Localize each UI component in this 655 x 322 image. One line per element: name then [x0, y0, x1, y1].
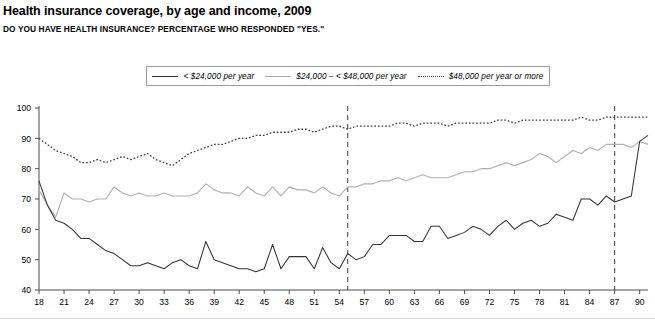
y-axis-tick-label: 50 — [21, 255, 31, 265]
annotation-vertical-lines — [348, 106, 615, 290]
y-axis-tick-labels: 405060708090100 — [17, 103, 32, 295]
x-axis-tick-labels: 1821242730333639424548515457606366697275… — [34, 297, 644, 307]
y-axis-tick-label: 70 — [21, 194, 31, 204]
series-line-solid-dark — [39, 135, 648, 271]
y-axis-tick-label: 60 — [21, 225, 31, 235]
series-line-dotted — [39, 117, 648, 166]
y-axis-tick-label: 40 — [21, 285, 31, 295]
x-axis-tick-label: 90 — [635, 297, 645, 307]
chart-container: Health insurance coverage, by age and in… — [0, 0, 655, 322]
x-axis-tick-label: 42 — [234, 297, 244, 307]
y-axis-tick-label: 100 — [17, 103, 32, 113]
x-axis-tick-label: 30 — [134, 297, 144, 307]
x-axis-tick-label: 54 — [335, 297, 345, 307]
data-series-group — [39, 117, 648, 272]
x-axis-tick-label: 21 — [59, 297, 69, 307]
x-axis-tick-label: 69 — [460, 297, 470, 307]
x-axis-tick-label: 45 — [259, 297, 269, 307]
x-axis-tick-label: 66 — [435, 297, 445, 307]
x-axis-tick-label: 48 — [284, 297, 294, 307]
x-axis-tick-label: 36 — [184, 297, 194, 307]
y-axis-tick-label: 80 — [21, 164, 31, 174]
x-axis-tick-label: 60 — [385, 297, 395, 307]
x-axis-tick-label: 18 — [34, 297, 44, 307]
x-axis-tick-label: 27 — [109, 297, 119, 307]
x-axis-tick-label: 63 — [410, 297, 420, 307]
series-line-solid-light — [39, 141, 648, 217]
x-axis-tick-label: 75 — [510, 297, 520, 307]
plot-area: 405060708090100 182124273033363942454851… — [0, 0, 655, 322]
x-axis-tick-label: 72 — [485, 297, 495, 307]
line-chart-svg: 405060708090100 182124273033363942454851… — [0, 0, 655, 322]
x-axis-tick-label: 39 — [209, 297, 219, 307]
footer-divider — [0, 318, 655, 319]
x-axis-tick-label: 24 — [84, 297, 94, 307]
x-axis-tick-label: 81 — [560, 297, 570, 307]
x-axis-tick-label: 33 — [159, 297, 169, 307]
x-axis-tick-label: 87 — [610, 297, 620, 307]
x-axis-tick-label: 51 — [310, 297, 320, 307]
x-axis-tick-label: 84 — [585, 297, 595, 307]
y-axis-tick-label: 90 — [21, 134, 31, 144]
x-axis-tick-label: 78 — [535, 297, 545, 307]
x-axis-tick-label: 57 — [360, 297, 370, 307]
